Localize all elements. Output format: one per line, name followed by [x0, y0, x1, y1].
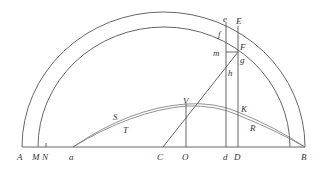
outer-arc: [22, 12, 305, 147]
geometry-figure: A M N a C O d D B e E f F m g h V K S T …: [0, 0, 320, 172]
diagram-canvas: A M N a C O d D B e E f F m g h V K S T …: [0, 0, 320, 172]
label-h: h: [228, 68, 233, 78]
label-e: e: [223, 14, 227, 24]
line-CF: [163, 52, 238, 147]
label-E: E: [235, 16, 242, 26]
label-S: S: [113, 112, 118, 122]
label-D: D: [233, 152, 241, 162]
label-g: g: [240, 55, 245, 65]
label-V: V: [183, 96, 190, 106]
label-C: C: [157, 152, 164, 162]
label-d: d: [223, 152, 228, 162]
curve-SVKR: [73, 104, 305, 147]
label-R: R: [249, 123, 256, 133]
label-A: A: [16, 152, 23, 162]
label-O: O: [182, 152, 189, 162]
label-m: m: [213, 48, 220, 58]
label-a: a: [69, 152, 74, 162]
label-B: B: [301, 152, 307, 162]
label-K: K: [240, 104, 248, 114]
label-N: N: [41, 152, 49, 162]
label-F: F: [239, 42, 246, 52]
label-f: f: [218, 29, 222, 39]
label-T: T: [123, 125, 129, 135]
label-M: M: [31, 152, 40, 162]
